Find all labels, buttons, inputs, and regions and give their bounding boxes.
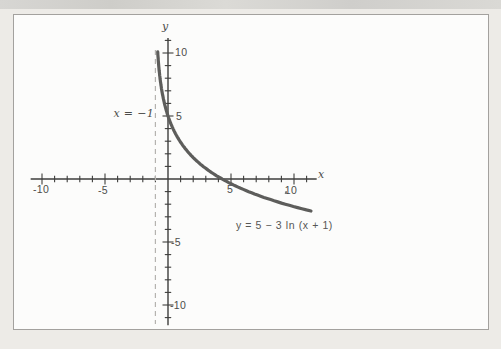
asymptote-label: x = −1 bbox=[112, 108, 154, 119]
y-tick-label-10: 10 bbox=[175, 47, 187, 58]
x-tick-label-neg5: -5 bbox=[91, 185, 115, 196]
chart-canvas bbox=[0, 0, 501, 349]
x-axis-title: x bbox=[318, 169, 325, 180]
x-tick-label-neg10: -10 bbox=[29, 184, 53, 195]
x-tick-label-10: 10 bbox=[279, 185, 303, 196]
y-axis-title: y bbox=[162, 21, 169, 32]
y-tick-label-neg10: -10 bbox=[170, 300, 186, 311]
equation-label: y = 5 − 3 ln (x + 1) bbox=[236, 220, 333, 231]
x-tick-label-5: 5 bbox=[218, 184, 242, 195]
y-tick-label-neg5: -5 bbox=[171, 237, 181, 248]
y-tick-label-5: 5 bbox=[176, 111, 182, 122]
